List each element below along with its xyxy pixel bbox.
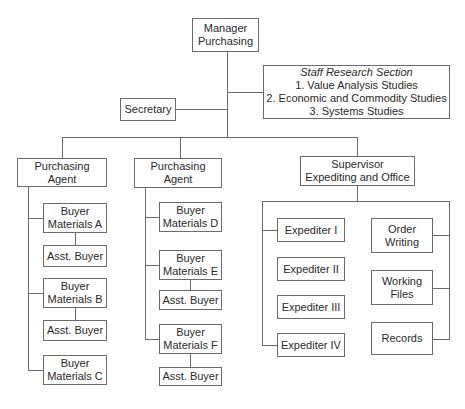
- buyer-materials-b-box: Buyer Materials B: [43, 278, 107, 308]
- buyer-e-line2: Materials E: [163, 265, 218, 278]
- working-files-box: Working Files: [371, 270, 433, 305]
- supervisor-line1: Supervisor: [331, 158, 384, 171]
- staff-research-box: Staff Research Section 1. Value Analysis…: [263, 65, 450, 119]
- buyer-b-line1: Buyer: [61, 280, 90, 293]
- records-label: Records: [382, 332, 423, 345]
- connector-main-branch: [62, 137, 358, 138]
- connector-expediter-4: [262, 345, 277, 346]
- buyer-c-line1: Buyer: [61, 357, 90, 370]
- working-files-line1: Working: [382, 275, 422, 288]
- connector-order-writing: [433, 235, 449, 236]
- buyer-c-line2: Materials C: [47, 370, 103, 383]
- connector-expediting-branch: [262, 201, 450, 202]
- expediter-1-box: Expediter I: [277, 218, 345, 242]
- connector-asst-b: [75, 308, 76, 320]
- purchasing-agent-2-box: Purchasing Agent: [134, 158, 222, 188]
- connector-asst-f: [190, 354, 191, 367]
- secretary-label: Secretary: [124, 103, 171, 116]
- manager-purchasing-box: Manager Purchasing: [192, 18, 259, 52]
- agent1-line2: Agent: [48, 173, 77, 186]
- purchasing-agent-1-box: Purchasing Agent: [17, 158, 107, 187]
- buyer-materials-f-box: Buyer Materials F: [159, 324, 222, 354]
- connector-manager-trunk: [227, 52, 228, 138]
- agent2-line1: Purchasing: [150, 160, 205, 173]
- asst-buyer-a-box: Asst. Buyer: [43, 245, 107, 267]
- buyer-f-line1: Buyer: [176, 326, 205, 339]
- working-files-line2: Files: [390, 288, 413, 301]
- staff-item: 2. Economic and Commodity Studies: [266, 92, 446, 105]
- order-writing-line1: Order: [388, 223, 416, 236]
- records-box: Records: [371, 322, 433, 355]
- manager-line2: Purchasing: [198, 35, 253, 48]
- connector-supervisor-down: [357, 186, 358, 201]
- connector-buyer-d: [145, 217, 159, 218]
- expediter-3-box: Expediter III: [277, 295, 345, 319]
- expediter-1-label: Expediter I: [285, 224, 338, 237]
- manager-line1: Manager: [204, 22, 247, 35]
- expediter-2-box: Expediter II: [277, 257, 345, 281]
- staff-title: Staff Research Section: [300, 66, 413, 79]
- asst-buyer-a-label: Asst. Buyer: [47, 250, 103, 263]
- connector-agent2-spine: [145, 188, 146, 340]
- supervisor-expediting-box: Supervisor Expediting and Office: [300, 156, 415, 186]
- order-writing-box: Order Writing: [371, 218, 433, 253]
- asst-buyer-b-box: Asst. Buyer: [43, 320, 107, 341]
- connector-agent1-drop: [62, 137, 63, 158]
- buyer-b-line2: Materials B: [47, 293, 102, 306]
- connector-buyer-e: [145, 265, 159, 266]
- connector-records: [433, 339, 449, 340]
- buyer-a-line1: Buyer: [61, 205, 90, 218]
- connector-buyer-c: [28, 370, 43, 371]
- order-writing-line2: Writing: [385, 236, 419, 249]
- connector-working-files: [433, 288, 449, 289]
- buyer-e-line1: Buyer: [176, 252, 205, 265]
- buyer-d-line1: Buyer: [176, 204, 205, 217]
- connector-staff: [227, 92, 263, 93]
- buyer-materials-c-box: Buyer Materials C: [43, 355, 107, 385]
- connector-buyer-b: [28, 293, 43, 294]
- expediter-4-label: Expediter IV: [281, 339, 341, 352]
- buyer-a-line2: Materials A: [48, 218, 102, 231]
- expediter-2-label: Expediter II: [283, 263, 339, 276]
- connector-agent2-drop: [180, 137, 181, 158]
- asst-buyer-e-label: Asst. Buyer: [162, 294, 218, 307]
- expediter-4-box: Expediter IV: [277, 333, 345, 357]
- agent1-line1: Purchasing: [34, 160, 89, 173]
- connector-secretary: [176, 109, 227, 110]
- connector-agent1-spine: [28, 187, 29, 371]
- agent2-line2: Agent: [164, 173, 193, 186]
- supervisor-line2: Expediting and Office: [305, 171, 409, 184]
- connector-expediter-1: [262, 230, 277, 231]
- asst-buyer-f-label: Asst. Buyer: [162, 370, 218, 383]
- connector-buyer-f: [145, 339, 159, 340]
- connector-expediter-spine: [262, 201, 263, 346]
- connector-office-spine: [449, 201, 450, 340]
- secretary-box: Secretary: [120, 98, 176, 121]
- connector-asst-a: [75, 233, 76, 245]
- staff-item: 1. Value Analysis Studies: [295, 79, 418, 92]
- expediter-3-label: Expediter III: [282, 301, 341, 314]
- asst-buyer-b-label: Asst. Buyer: [47, 324, 103, 337]
- connector-supervisor-drop: [357, 137, 358, 156]
- asst-buyer-f-box: Asst. Buyer: [159, 367, 222, 386]
- buyer-materials-d-box: Buyer Materials D: [159, 202, 222, 232]
- buyer-materials-a-box: Buyer Materials A: [43, 203, 107, 233]
- connector-asst-e: [190, 280, 191, 290]
- connector-buyer-a: [28, 218, 43, 219]
- buyer-d-line2: Materials D: [163, 217, 219, 230]
- staff-item: 3. Systems Studies: [309, 105, 403, 118]
- buyer-materials-e-box: Buyer Materials E: [159, 250, 222, 280]
- buyer-f-line2: Materials F: [163, 339, 217, 352]
- asst-buyer-e-box: Asst. Buyer: [159, 290, 222, 310]
